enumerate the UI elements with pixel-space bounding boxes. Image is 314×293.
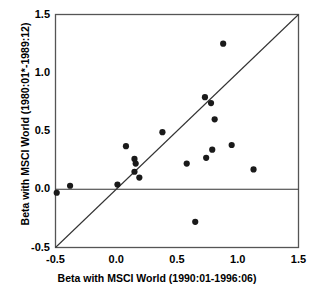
- data-point: [192, 219, 198, 225]
- data-point: [123, 143, 129, 149]
- data-point: [212, 116, 218, 122]
- data-point: [114, 181, 120, 187]
- data-point: [54, 190, 60, 196]
- data-point: [250, 166, 256, 172]
- data-point: [202, 94, 208, 100]
- data-point: [136, 175, 142, 181]
- plot-area: [0, 0, 314, 293]
- data-point: [209, 147, 215, 153]
- data-point: [67, 183, 73, 189]
- data-point: [208, 100, 214, 106]
- data-point: [159, 129, 165, 135]
- data-point: [220, 41, 226, 47]
- data-point: [229, 142, 235, 148]
- identity-diagonal-line: [56, 15, 299, 248]
- data-point: [203, 155, 209, 161]
- data-point: [184, 161, 190, 167]
- data-points-group: [54, 41, 257, 225]
- data-point: [131, 169, 137, 175]
- data-point: [133, 161, 139, 167]
- scatter-plot-figure: Beta with MSCI World (1980:01*-1989:12) …: [0, 0, 314, 293]
